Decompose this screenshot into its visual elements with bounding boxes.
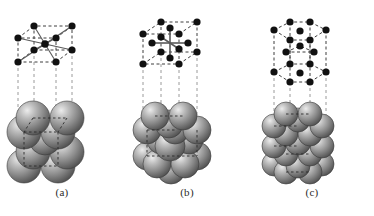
panel-b: (b)	[125, 0, 249, 216]
panel-a-diagram	[0, 0, 124, 186]
panel-c-caption: (c)	[250, 186, 374, 198]
sphere-model-a	[7, 101, 84, 183]
center-bonds-b	[152, 28, 188, 58]
panel-a-caption: (a)	[0, 186, 124, 198]
sphere-model-c	[262, 102, 334, 184]
crystal-structure-figure: (a)	[0, 0, 374, 216]
panel-a: (a)	[0, 0, 124, 216]
panel-c-diagram	[250, 0, 374, 186]
panel-b-diagram	[125, 0, 249, 186]
panel-c: (c)	[250, 0, 374, 216]
sphere-model-b	[133, 102, 211, 184]
panel-b-caption: (b)	[125, 186, 249, 198]
lattice-nodes-a	[14, 22, 75, 65]
